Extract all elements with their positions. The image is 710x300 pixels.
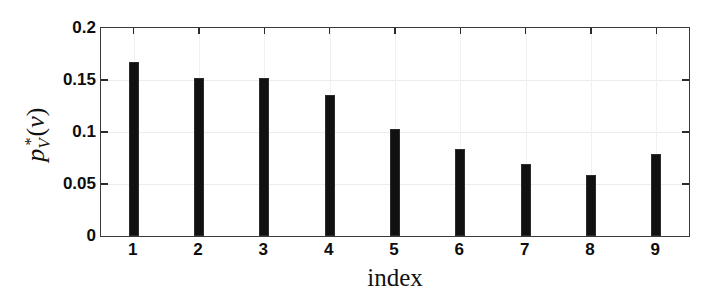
y-axis-tick-mark bbox=[101, 183, 108, 185]
x-axis-tick-mark bbox=[656, 28, 658, 34]
x-axis-tick-label: 7 bbox=[505, 241, 545, 258]
x-axis-tick-mark bbox=[394, 28, 396, 34]
chart-figure: pV*(v) 00.050.10.150.2 123456789 index bbox=[0, 0, 710, 300]
x-axis-tick-mark bbox=[590, 28, 592, 34]
y-axis-label-argument: (v) bbox=[21, 108, 50, 137]
bar bbox=[259, 78, 269, 236]
x-axis-tick-label: 9 bbox=[635, 241, 675, 258]
x-axis-tick-mark bbox=[460, 28, 462, 34]
y-axis-tick-label: 0 bbox=[50, 227, 96, 244]
bar bbox=[455, 149, 465, 236]
y-axis-label-base: p bbox=[21, 149, 50, 162]
x-axis-tick-mark bbox=[133, 28, 135, 34]
y-axis-tick-mark bbox=[101, 131, 108, 133]
y-axis-tick-mark bbox=[682, 79, 689, 81]
x-axis-tick-label: 3 bbox=[243, 241, 283, 258]
y-axis-tick-mark bbox=[682, 131, 689, 133]
bar bbox=[586, 175, 596, 236]
x-axis-tick-mark bbox=[264, 28, 266, 34]
y-axis-tick-label: 0.2 bbox=[50, 19, 96, 36]
x-axis-tick-mark bbox=[525, 28, 527, 34]
y-axis-tick-labels: 00.050.10.150.2 bbox=[48, 0, 96, 300]
x-axis-tick-mark bbox=[198, 28, 200, 34]
y-axis-tick-mark bbox=[101, 79, 108, 81]
bar bbox=[325, 95, 335, 236]
y-axis-tick-label: 0.1 bbox=[50, 123, 96, 140]
x-axis-tick-label: 2 bbox=[178, 241, 218, 258]
y-axis-tick-label: 0.05 bbox=[50, 175, 96, 192]
bar bbox=[521, 164, 531, 236]
x-axis-tick-label: 1 bbox=[113, 241, 153, 258]
y-axis-label-superscript: * bbox=[22, 138, 39, 146]
bar bbox=[651, 154, 661, 236]
y-axis-tick-mark bbox=[682, 183, 689, 185]
x-axis-tick-label: 8 bbox=[570, 241, 610, 258]
plot-area bbox=[100, 27, 690, 237]
y-axis-tick-label: 0.15 bbox=[50, 71, 96, 88]
x-axis-tick-label: 5 bbox=[374, 241, 414, 258]
x-axis-tick-label: 6 bbox=[439, 241, 479, 258]
x-axis-label: index bbox=[100, 264, 690, 292]
bar bbox=[129, 62, 139, 236]
x-axis-tick-mark bbox=[329, 28, 331, 34]
x-axis-tick-label: 4 bbox=[309, 241, 349, 258]
bar bbox=[194, 78, 204, 236]
bar bbox=[390, 129, 400, 236]
